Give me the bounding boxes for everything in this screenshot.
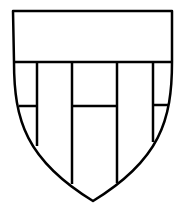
shield-figure	[0, 0, 182, 212]
